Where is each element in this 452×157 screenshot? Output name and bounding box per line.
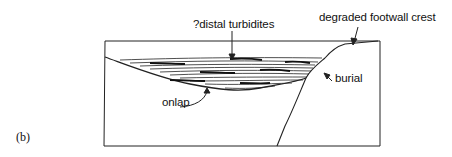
label-onlap: onlap bbox=[162, 96, 190, 108]
panel-label: (b) bbox=[16, 130, 30, 145]
label-degraded-footwall-crest: degraded footwall crest bbox=[319, 11, 436, 23]
section-frame bbox=[104, 41, 380, 146]
label-distal-turbidites: ?distal turbidites bbox=[193, 18, 274, 30]
footwall-crest bbox=[325, 41, 378, 58]
cross-section-diagram: ?distal turbidites degraded footwall cre… bbox=[0, 0, 452, 157]
strata-thick-lenses bbox=[150, 59, 310, 84]
annotation-arrows bbox=[180, 27, 358, 107]
label-burial: burial bbox=[335, 72, 363, 84]
